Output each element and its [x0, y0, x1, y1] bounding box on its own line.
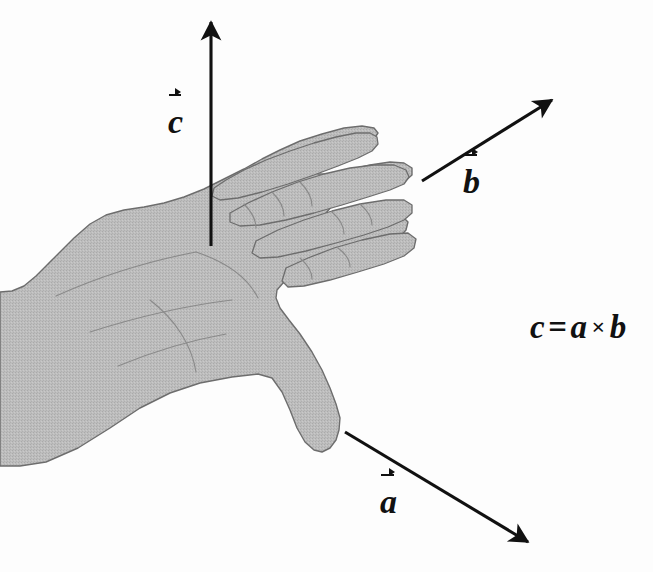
- vector-a-label: a: [380, 484, 397, 519]
- vector-c-label-text: c: [168, 104, 183, 139]
- equation-rhs-b: b: [610, 309, 627, 345]
- vector-b-label: b: [463, 164, 480, 199]
- vector-a-arrow: [345, 432, 528, 542]
- equation-times-sign: ×: [587, 314, 609, 340]
- vector-a-label-text: a: [380, 484, 397, 519]
- figure-canvas: [0, 0, 653, 572]
- vector-c-label: c: [168, 104, 183, 139]
- cross-product-right-hand-figure: c b a c=a×b: [0, 0, 653, 572]
- equation-lhs-c: c: [530, 309, 545, 345]
- equation-rhs-a: a: [570, 309, 587, 345]
- vector-b-arrow: [422, 100, 552, 181]
- equation-equals-sign: =: [545, 309, 570, 345]
- vector-b-label-text: b: [463, 164, 480, 199]
- right-hand-illustration: [0, 126, 416, 466]
- cross-product-equation: c=a×b: [530, 309, 627, 346]
